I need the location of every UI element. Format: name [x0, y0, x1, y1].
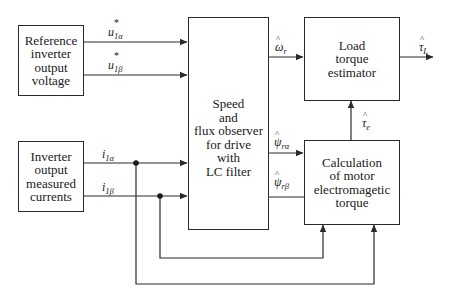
reference-voltage-label: Reference inverter output voltage	[25, 34, 78, 88]
em-torque-calculation-block: Calculation of motor electromagetic torq…	[304, 140, 400, 225]
psi-ra-base: ψ	[274, 136, 281, 148]
tau-l-label: τL	[419, 41, 428, 57]
em-torque-label: Calculation of motor electromagetic torq…	[314, 156, 391, 210]
load-torque-estimator-block: Load torque estimator	[304, 17, 400, 101]
u1b-label: u1β	[108, 59, 122, 75]
tau-e-sub: e	[366, 122, 370, 132]
psi-rb-label: ψrβ	[274, 176, 289, 192]
u1b-sub: 1β	[114, 64, 122, 74]
observer-block: Speed and flux observer for drive with L…	[188, 17, 269, 230]
psi-ra-label: ψrα	[274, 136, 289, 152]
junction-dot-i1b	[157, 193, 163, 199]
tau-e-label: τe	[362, 117, 370, 133]
omega-r-label: ωr	[275, 41, 287, 57]
i1a-label: i1α	[102, 148, 114, 164]
psi-rb-base: ψ	[274, 176, 281, 188]
measured-currents-block: Inverter output measured currents	[18, 141, 84, 212]
i1b-sub: 1β	[105, 186, 113, 196]
u1b-base: u	[108, 59, 114, 71]
i1a-sub: 1α	[105, 153, 114, 163]
u1a-sub: 1α	[114, 31, 123, 41]
i1b-label: i1β	[102, 181, 114, 197]
junction-dot-i1a	[133, 160, 139, 166]
tau-l-sub: L	[423, 46, 428, 56]
tau-e-base: τ	[362, 117, 366, 129]
observer-label: Speed and flux observer for drive with L…	[194, 97, 263, 178]
omega-r-base: ω	[275, 41, 283, 53]
reference-voltage-block: Reference inverter output voltage	[18, 25, 84, 96]
load-torque-label: Load torque estimator	[328, 39, 376, 80]
measured-currents-label: Inverter output measured currents	[26, 150, 76, 204]
psi-rb-sub: rβ	[281, 181, 289, 191]
u1a-label: u1α	[108, 26, 123, 42]
psi-ra-sub: rα	[281, 141, 289, 151]
omega-r-sub: r	[283, 46, 286, 56]
u1a-base: u	[108, 26, 114, 38]
tau-l-base: τ	[419, 41, 423, 53]
